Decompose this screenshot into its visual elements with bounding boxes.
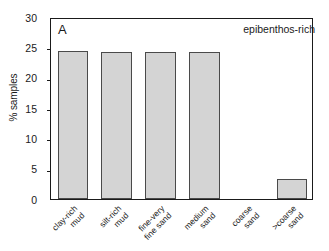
y-tick-label: 20 xyxy=(25,73,37,84)
bar[interactable] xyxy=(58,51,89,199)
y-tick-mark xyxy=(47,80,51,81)
y-tick-mark xyxy=(47,110,51,111)
y-tick-label: 5 xyxy=(31,164,37,175)
bar[interactable] xyxy=(101,52,132,199)
y-tick-label: 25 xyxy=(25,43,37,54)
y-tick-label: 10 xyxy=(25,134,37,145)
bar-slot xyxy=(189,19,220,199)
y-tick-label: 30 xyxy=(25,13,37,24)
y-axis-tick-labels: 051015202530 xyxy=(0,0,45,251)
bar-slot xyxy=(58,19,89,199)
bar[interactable] xyxy=(145,52,176,199)
bar-slot xyxy=(277,19,308,199)
bar-slot xyxy=(101,19,132,199)
x-axis-tick-labels: clay-richmudsilt-richmudfine-veryfine sa… xyxy=(50,200,313,251)
y-tick-label: 0 xyxy=(31,195,37,206)
y-tick-mark xyxy=(47,171,51,172)
plot-frame xyxy=(50,18,313,200)
bar-slot xyxy=(145,19,176,199)
bar-chart-figure: % samples 051015202530 A epibenthos-rich… xyxy=(0,0,329,251)
bar-slot xyxy=(233,19,264,199)
y-tick-label: 15 xyxy=(25,104,37,115)
bar[interactable] xyxy=(189,52,220,199)
y-tick-mark xyxy=(47,49,51,50)
plot-area xyxy=(51,19,312,199)
y-tick-mark xyxy=(47,140,51,141)
panel-label: A xyxy=(58,22,67,37)
series-annotation-label: epibenthos-rich xyxy=(243,23,315,35)
bar[interactable] xyxy=(277,179,308,199)
